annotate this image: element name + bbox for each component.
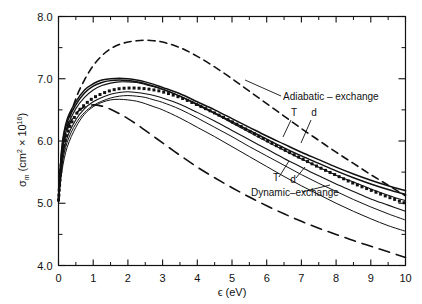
data-marker [360, 185, 363, 188]
data-marker [94, 95, 97, 98]
data-marker [398, 200, 401, 203]
data-marker [157, 89, 160, 92]
data-marker [222, 116, 225, 119]
data-marker [342, 177, 345, 180]
data-marker [379, 193, 382, 196]
x-axis-label: ϵ (eV) [218, 286, 247, 298]
data-marker [162, 91, 165, 94]
data-marker [240, 125, 243, 128]
data-marker [218, 114, 221, 117]
data-marker [123, 87, 126, 90]
x-tick-label: 2 [125, 272, 131, 284]
y-axis-units-post: ) [16, 113, 28, 117]
annotation-dynamic-T: T [273, 172, 279, 183]
annotation-adiabatic-exchange: Adiabatic – exchange [283, 91, 379, 102]
data-marker [79, 108, 82, 111]
data-marker [152, 88, 155, 91]
data-marker [320, 167, 323, 170]
data-marker [306, 160, 309, 163]
x-tick-label: 0 [55, 272, 61, 284]
annotation-dynamic-d: d [290, 174, 296, 185]
y-tick-label: 5.0 [37, 197, 52, 209]
data-marker [68, 125, 71, 128]
data-marker [257, 135, 260, 138]
data-marker [176, 95, 179, 98]
x-tick-label: 6 [264, 272, 270, 284]
y-tick-label: 7.0 [37, 73, 52, 85]
data-marker [333, 173, 336, 176]
annotation-adiabatic-d: d [311, 107, 317, 118]
x-tick-label: 3 [160, 272, 166, 284]
data-marker [195, 103, 198, 106]
data-marker [293, 153, 296, 156]
data-marker [297, 156, 300, 159]
data-marker [167, 92, 170, 95]
y-axis-units-mid: × 10 [16, 124, 28, 149]
data-marker [213, 111, 216, 114]
data-marker [315, 165, 318, 168]
data-marker [253, 132, 256, 135]
data-marker [133, 87, 136, 90]
x-tick-label: 8 [333, 272, 339, 284]
data-marker [356, 183, 359, 186]
data-marker [73, 116, 76, 119]
data-marker [75, 112, 78, 115]
data-marker [190, 101, 193, 104]
data-marker [86, 101, 89, 104]
annotation-dynamic-exchange: Dynamic–exchange [251, 187, 339, 198]
annotation-adiabatic-T: T [291, 107, 297, 118]
data-marker [108, 89, 111, 92]
data-marker [271, 142, 274, 145]
data-marker [403, 201, 406, 204]
data-marker [172, 94, 175, 97]
data-marker [235, 123, 238, 126]
data-marker [113, 88, 116, 91]
data-marker [209, 109, 212, 112]
data-marker [311, 162, 314, 165]
y-axis-units-pre: (cm [16, 153, 28, 171]
data-marker [99, 93, 102, 96]
data-marker [347, 179, 350, 182]
y-tick-label: 4.0 [37, 260, 52, 272]
data-marker [82, 104, 85, 107]
data-marker [388, 196, 391, 199]
data-marker [365, 187, 368, 190]
data-marker [249, 130, 252, 133]
cross-section-plot: 0123456789104.05.06.07.08.0 ϵ (eV) σm (c… [0, 0, 422, 304]
data-marker [186, 99, 189, 102]
data-marker [199, 105, 202, 108]
data-marker [103, 91, 106, 94]
data-marker [138, 87, 141, 90]
data-marker [118, 87, 121, 90]
data-marker [226, 118, 229, 121]
x-tick-label: 9 [368, 272, 374, 284]
data-marker [284, 149, 287, 152]
data-marker [71, 120, 74, 123]
y-axis-sup2: 16 [16, 116, 23, 124]
data-marker [181, 97, 184, 100]
data-marker [275, 144, 278, 147]
data-marker [231, 120, 234, 123]
x-tick-label: 7 [298, 272, 304, 284]
data-marker [128, 87, 131, 90]
data-marker [384, 194, 387, 197]
data-marker [351, 182, 354, 185]
y-tick-label: 8.0 [37, 11, 52, 23]
data-marker [266, 139, 269, 142]
data-marker [329, 171, 332, 174]
data-marker [288, 151, 291, 154]
x-tick-label: 10 [399, 272, 411, 284]
figure-panel: 0123456789104.05.06.07.08.0 ϵ (eV) σm (c… [0, 0, 422, 304]
data-marker [204, 107, 207, 110]
data-marker [393, 198, 396, 201]
data-marker [143, 87, 146, 90]
data-marker [324, 169, 327, 172]
data-marker [244, 128, 247, 131]
x-tick-label: 1 [90, 272, 96, 284]
x-tick-label: 5 [229, 272, 235, 284]
data-marker [262, 137, 265, 140]
data-marker [370, 189, 373, 192]
data-marker [338, 175, 341, 178]
data-marker [302, 158, 305, 161]
y-tick-label: 6.0 [37, 135, 52, 147]
